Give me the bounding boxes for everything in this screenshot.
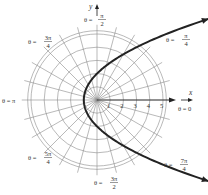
grid-ray-135: [44, 47, 97, 100]
radial-tick-labels: 12345: [107, 102, 163, 109]
angle-label-numerator: 7π: [181, 157, 188, 164]
angle-label-numerator: π: [184, 32, 188, 39]
grid-ray-120: [59, 35, 97, 100]
grid-ray-240: [59, 100, 97, 165]
x-direction-arrowhead: [188, 98, 193, 102]
angle-label-135: θ = 3π4: [28, 34, 52, 49]
angle-label-text: θ = 0: [178, 105, 191, 112]
x-axis-arrowhead: [169, 98, 176, 103]
angle-label-0: θ = 0: [178, 105, 191, 112]
grid-ray-210: [32, 100, 97, 138]
angle-label-text: θ =: [28, 154, 37, 161]
axes: xy: [88, 2, 193, 103]
angle-label-45: θ = π4: [166, 32, 190, 47]
angle-label-denominator: 4: [46, 158, 50, 165]
angle-label-denominator: 4: [182, 165, 186, 172]
angle-label-denominator: 4: [184, 40, 188, 47]
curve-arrowhead-upper: [201, 18, 208, 24]
grid-ray-225: [44, 100, 97, 153]
radial-tick-label: 1: [107, 102, 110, 109]
angle-label-180: θ = π: [2, 97, 16, 104]
grid-ray-255: [78, 100, 97, 173]
grid-ray-150: [32, 62, 97, 100]
radial-tick-label: 4: [147, 102, 151, 109]
y-direction-arrowhead: [95, 4, 99, 9]
grid-ray-75: [97, 27, 116, 100]
y-axis-label: y: [88, 2, 93, 11]
angle-label-270: θ = 3π2: [94, 175, 118, 190]
angle-label-text: θ =: [94, 179, 103, 186]
angle-label-numerator: π: [100, 12, 104, 19]
angle-label-text: θ =: [28, 38, 37, 45]
polar-plot: xy 12345 θ = π2θ = 3π4θ = π4θ = πθ = 0θ …: [0, 0, 208, 195]
angle-label-numerator: 3π: [111, 175, 118, 182]
angle-label-denominator: 4: [46, 42, 50, 49]
radial-tick-label: 3: [133, 102, 136, 109]
x-axis-label: x: [188, 88, 193, 97]
angle-label-90: θ = π2: [84, 12, 106, 27]
grid-ray-285: [97, 100, 116, 173]
curve-arrowhead-lower: [201, 176, 208, 182]
angle-label-numerator: 3π: [45, 34, 52, 41]
grid-ray-105: [78, 27, 97, 100]
angle-label-text: θ =: [166, 36, 175, 43]
grid-ray-30: [97, 62, 162, 100]
angle-label-numerator: 5π: [45, 150, 52, 157]
angle-label-text: θ =: [164, 161, 173, 168]
radial-tick-label: 5: [160, 102, 163, 109]
angle-label-denominator: 2: [100, 20, 103, 27]
grid-ray-15: [97, 81, 170, 100]
radial-tick-label: 2: [120, 102, 123, 109]
angle-label-text: θ =: [84, 16, 93, 23]
angle-label-denominator: 2: [112, 183, 115, 190]
angle-label-text: θ = π: [2, 97, 16, 104]
angle-label-225: θ = 5π4: [28, 150, 52, 165]
